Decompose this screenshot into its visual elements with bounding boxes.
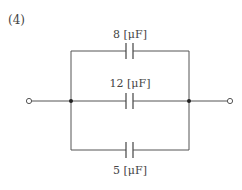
circuit-diagram: (4) 8 [μF] 12 [μF] 5 [μF] [0,0,242,190]
capacitor-bottom: 5 [μF] [71,142,189,177]
capacitor-middle-label: 12 [μF] [110,77,151,90]
capacitor-middle: 12 [μF] [29,77,230,109]
right-node [187,99,191,103]
capacitor-top-label: 8 [μF] [113,28,147,41]
capacitor-bottom-label: 5 [μF] [113,164,147,177]
problem-number: (4) [8,13,25,27]
capacitor-top: 8 [μF] [71,28,189,59]
right-terminal [227,98,232,103]
left-terminal [26,98,31,103]
left-node [69,99,73,103]
